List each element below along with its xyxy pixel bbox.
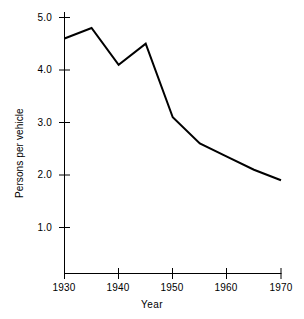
x-tick-label-1970: 1970 xyxy=(261,282,301,293)
x-tick-label-1950: 1950 xyxy=(152,282,192,293)
x-axis-title: Year xyxy=(130,299,174,310)
line-chart-canvas xyxy=(0,0,304,319)
data-series-line xyxy=(65,28,282,180)
x-tick-label-1940: 1940 xyxy=(98,282,138,293)
chart-figure: 5.0 4.0 3.0 2.0 1.0 1930 1940 1950 1960 … xyxy=(0,0,304,319)
x-tick-label-1930: 1930 xyxy=(44,282,84,293)
y-tick-label-1: 1.0 xyxy=(18,222,52,233)
y-axis-title: Persons per vehicle xyxy=(14,108,25,198)
y-tick-label-5: 5.0 xyxy=(18,12,52,23)
x-tick-label-1960: 1960 xyxy=(206,282,246,293)
chart-axes xyxy=(64,12,282,274)
y-tick-label-4: 4.0 xyxy=(18,64,52,75)
